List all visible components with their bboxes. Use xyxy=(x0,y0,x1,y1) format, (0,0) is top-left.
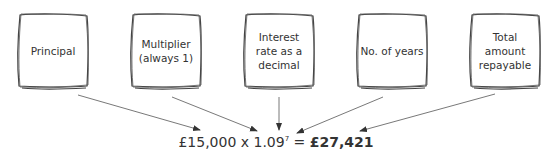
box-label: No. of years xyxy=(357,44,426,58)
box-multiplier: Multiplier (always 1) xyxy=(131,14,201,87)
formula: £15,000 x 1.097 = £27,421 xyxy=(0,134,552,150)
arrow-years xyxy=(297,97,383,133)
formula-result: £27,421 xyxy=(310,134,374,150)
box-label: Interest rate as a decimal xyxy=(244,30,314,72)
box-label: Multiplier (always 1) xyxy=(131,37,201,65)
box-label: Principal xyxy=(28,44,79,58)
box-principal: Principal xyxy=(18,14,88,87)
arrow-total xyxy=(360,94,495,131)
formula-operator: x xyxy=(236,134,253,150)
box-years: No. of years xyxy=(357,14,427,87)
arrow-principal xyxy=(78,95,200,130)
formula-equals: = xyxy=(289,134,310,150)
box-label: Total amount repayable xyxy=(470,30,540,72)
box-total-repayable: Total amount repayable xyxy=(470,14,540,87)
formula-base: 1.09 xyxy=(254,134,285,150)
formula-principal: £15,000 xyxy=(178,134,236,150)
box-interest-rate: Interest rate as a decimal xyxy=(244,14,314,87)
